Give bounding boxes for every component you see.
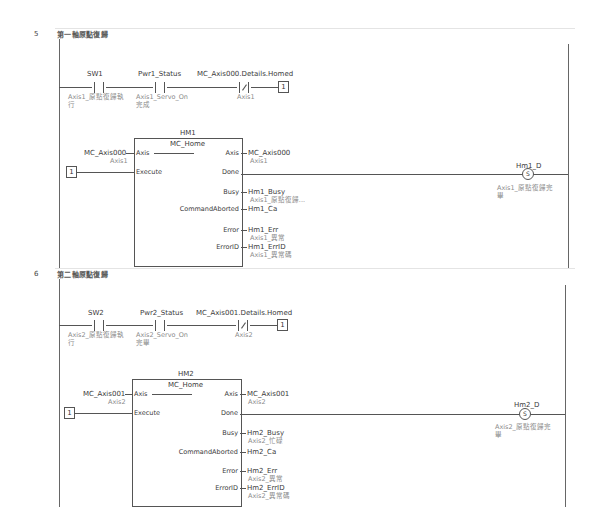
contact-comment-line2: 行 xyxy=(68,101,75,109)
fb-pin-done: Done xyxy=(205,168,239,176)
fb-pin-error: Error xyxy=(195,226,239,234)
contact-variable: MC_Axis000.Details.Homed xyxy=(197,70,293,78)
fb-pin-axis-in: Axis xyxy=(136,149,150,157)
fb-input-axis-var[interactable]: MC_Axis001 xyxy=(83,390,125,398)
pin-wire xyxy=(240,452,246,453)
fb-output-busy-comment: Axis2_忙碌 xyxy=(248,437,283,445)
contact-variable: Pwr1_Status xyxy=(138,70,181,78)
nc-contact-icon[interactable] xyxy=(237,82,251,93)
contact-variable: MC_Axis001.Details.Homed xyxy=(196,309,292,317)
fb-pin-busy: Busy xyxy=(195,188,239,196)
fb-output-axis-var[interactable]: MC_Axis000 xyxy=(248,149,290,157)
contact-comment: Axis1_Servo_On xyxy=(136,93,188,101)
rung-number: 6 xyxy=(34,270,38,278)
axis-passthrough-line xyxy=(154,153,194,154)
rung-number: 5 xyxy=(34,30,38,38)
coil-comment-line2: 畢 xyxy=(497,192,504,200)
done-wire xyxy=(240,414,565,415)
no-contact-icon[interactable] xyxy=(92,320,106,331)
fb-output-busy-var[interactable]: Hm2_Busy xyxy=(247,429,284,437)
constant-box[interactable]: 1 xyxy=(277,319,288,331)
fb-output-ca-var[interactable]: Hm1_Ca xyxy=(248,205,277,213)
right-power-rail xyxy=(568,44,569,268)
constant-box[interactable]: 1 xyxy=(64,407,75,419)
fb-output-axis-comment: Axis2 xyxy=(248,398,266,406)
fb-input-axis-comment: Axis2 xyxy=(108,398,126,406)
fb-type-name: MC_Home xyxy=(170,140,205,148)
pin-wire xyxy=(241,192,247,193)
fb-pin-error: Error xyxy=(194,467,238,475)
fb-output-errorid-comment: Axis2_異常碼 xyxy=(248,492,290,500)
fb-output-axis-var[interactable]: MC_Axis001 xyxy=(247,390,289,398)
left-power-rail xyxy=(59,279,60,507)
no-contact-icon[interactable] xyxy=(153,320,167,331)
fb-output-error-comment: Axis2_異常 xyxy=(248,475,283,483)
contact-comment-line2: 完畢 xyxy=(136,339,150,347)
fb-input-axis-var[interactable]: MC_Axis000 xyxy=(84,149,126,157)
fb-output-busy-var[interactable]: Hm1_Busy xyxy=(248,188,285,196)
fb-output-errorid-var[interactable]: Hm2_ErrID xyxy=(247,484,285,492)
rung-comment[interactable]: 第二軸原點復歸 xyxy=(57,269,108,279)
fb-output-error-comment: Axis1_異常 xyxy=(250,234,285,242)
contact-comment-line2: 行 xyxy=(68,339,75,347)
fb-output-error-var[interactable]: Hm2_Err xyxy=(247,467,277,475)
fb-type-name: MC_Home xyxy=(168,381,203,389)
fb-output-errorid-var[interactable]: Hm1_ErrID xyxy=(248,243,286,251)
rung-separator xyxy=(55,268,575,269)
coil-comment: Axis1_原點復歸完 xyxy=(497,184,553,192)
pin-wire xyxy=(241,209,247,210)
pin-wire xyxy=(241,153,247,154)
pin-wire xyxy=(240,488,246,489)
nc-contact-icon[interactable] xyxy=(236,320,250,331)
coil-comment: Axis2_原點復歸完 xyxy=(495,423,551,431)
fb-pin-command-aborted: CommandAborted xyxy=(164,448,238,456)
pin-wire xyxy=(126,153,134,154)
fb-input-axis-comment: Axis1 xyxy=(110,157,128,165)
contact-variable: SW2 xyxy=(88,309,104,317)
rung-comment[interactable]: 第一軸原點復歸 xyxy=(57,29,108,39)
constant-box[interactable]: 1 xyxy=(66,166,77,178)
contact-variable: Pwr2_Status xyxy=(140,309,183,317)
set-coil-icon[interactable]: S xyxy=(522,168,534,180)
fb-pin-axis-in: Axis xyxy=(134,390,148,398)
no-contact-icon[interactable] xyxy=(153,82,167,93)
execute-wire xyxy=(77,172,134,173)
fb-output-busy-comment: Axis1_原點復歸... xyxy=(250,196,305,204)
fb-instance-name: HM2 xyxy=(178,370,194,378)
contact-variable: SW1 xyxy=(87,70,103,78)
fb-pin-axis-out: Axis xyxy=(204,390,238,398)
fb-pin-errorid: ErrorID xyxy=(194,484,238,492)
no-contact-icon[interactable] xyxy=(92,82,106,93)
fb-output-axis-comment: Axis1 xyxy=(250,157,268,165)
done-wire xyxy=(241,174,568,175)
fb-pin-errorid: ErrorID xyxy=(195,243,239,251)
contact-comment-line2: 完成 xyxy=(136,101,150,109)
contact-comment: Axis1_原點復歸執 xyxy=(68,93,124,101)
pin-wire xyxy=(240,471,246,472)
pin-wire xyxy=(125,394,132,395)
fb-pin-done: Done xyxy=(204,409,238,417)
fb-instance-name: HM1 xyxy=(180,129,196,137)
left-power-rail xyxy=(59,39,60,268)
fb-output-errorid-comment: Axis1_異常碼 xyxy=(250,251,292,259)
fb-output-error-var[interactable]: Hm1_Err xyxy=(248,226,278,234)
contact-comment: Axis2_Servo_On xyxy=(136,331,188,339)
execute-wire xyxy=(75,413,132,414)
fb-pin-command-aborted: CommandAborted xyxy=(165,205,239,213)
constant-box[interactable]: 1 xyxy=(278,81,289,93)
axis-passthrough-line xyxy=(152,394,192,395)
fb-output-ca-var[interactable]: Hm2_Ca xyxy=(247,448,276,456)
rung-separator xyxy=(55,28,575,29)
pin-wire xyxy=(241,230,247,231)
pin-wire xyxy=(241,247,247,248)
fb-pin-execute: Execute xyxy=(136,168,162,176)
contact-comment: Axis2 xyxy=(235,331,253,339)
contact-comment: Axis2_原點復歸執 xyxy=(68,331,124,339)
right-power-rail xyxy=(565,285,566,507)
set-coil-icon[interactable]: S xyxy=(519,408,531,420)
pin-wire xyxy=(240,433,246,434)
pin-wire xyxy=(240,394,246,395)
fb-pin-execute: Execute xyxy=(134,409,160,417)
coil-comment-line2: 畢 xyxy=(495,431,502,439)
contact-comment: Axis1 xyxy=(237,93,255,101)
